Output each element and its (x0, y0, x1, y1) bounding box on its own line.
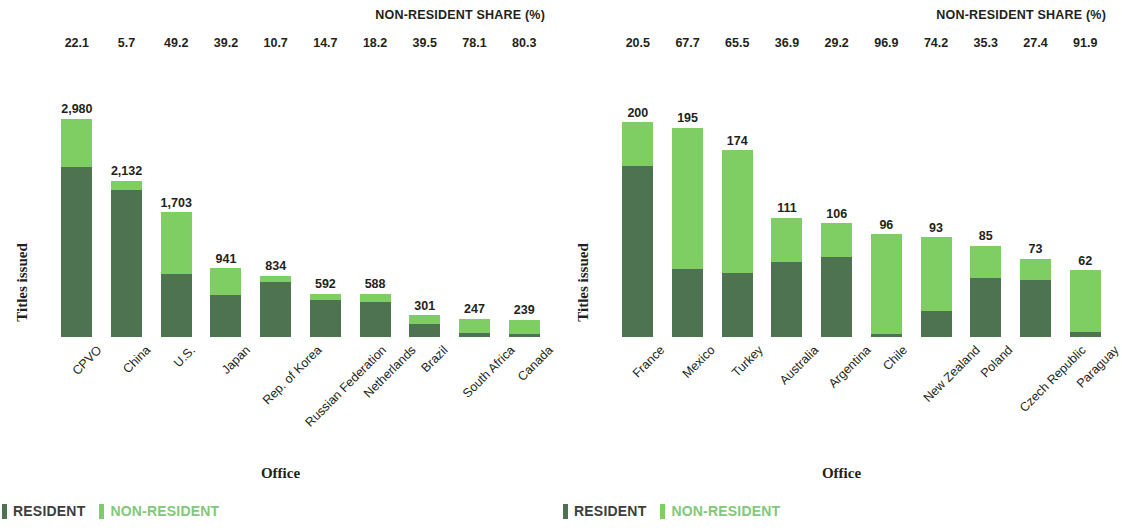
non-resident-share-value: 39.5 (400, 36, 450, 52)
x-axis-tick-label: New Zealand (911, 341, 961, 451)
bar-total-label: 592 (315, 278, 336, 291)
chart-panel-right: NON-RESIDENT SHARE (%) 20.567.765.536.92… (561, 0, 1122, 531)
bar-segment-non-resident[interactable] (622, 122, 653, 166)
non-resident-share-value: 29.2 (812, 36, 862, 52)
x-axis-tick-text: France (630, 343, 667, 380)
bar-segment-resident[interactable] (622, 166, 653, 337)
bar-segment-non-resident[interactable] (509, 320, 540, 334)
stacked-bar[interactable] (459, 319, 490, 337)
bar-segment-non-resident[interactable] (921, 237, 952, 311)
x-axis-tick-text: Paraguay (1074, 343, 1122, 391)
stacked-bar[interactable] (61, 119, 92, 337)
bar-segment-resident[interactable] (409, 324, 440, 337)
stacked-bar[interactable] (509, 320, 540, 337)
bar-segment-resident[interactable] (459, 333, 490, 337)
bar-segment-non-resident[interactable] (771, 218, 802, 262)
bar-segment-non-resident[interactable] (1020, 259, 1051, 281)
bar-segment-non-resident[interactable] (672, 128, 703, 270)
bar-segment-resident[interactable] (161, 274, 192, 337)
bar-segment-non-resident[interactable] (210, 268, 241, 295)
bar-group: 200 (613, 100, 663, 337)
stacked-bar[interactable] (821, 223, 852, 337)
bar-segment-resident[interactable] (310, 300, 341, 337)
non-resident-share-value: 65.5 (712, 36, 762, 52)
bar-segment-resident[interactable] (509, 334, 540, 337)
bar-segment-resident[interactable] (210, 295, 241, 337)
resident-swatch-icon (2, 504, 7, 519)
stacked-bar[interactable] (622, 122, 653, 337)
bar-segment-non-resident[interactable] (409, 315, 440, 324)
x-axis-title: Office (0, 465, 561, 482)
bar-group: 96 (862, 100, 912, 337)
bar-segment-resident[interactable] (871, 334, 902, 337)
bar-segment-resident[interactable] (111, 190, 142, 337)
stacked-bar[interactable] (722, 150, 753, 337)
non-resident-share-value: 91.9 (1060, 36, 1110, 52)
x-axis-tick-text: China (120, 343, 153, 376)
stacked-bar[interactable] (672, 128, 703, 337)
bar-segment-resident[interactable] (921, 311, 952, 337)
bar-group: 106 (812, 100, 862, 337)
non-resident-share-values: 22.15.749.239.210.714.718.239.578.180.3 (52, 36, 549, 52)
x-axis-tick-text: Turkey (729, 343, 766, 380)
x-axis-category-labels: FranceMexicoTurkeyAustraliaArgentinaChil… (613, 341, 1110, 451)
bar-segment-non-resident[interactable] (459, 319, 490, 333)
x-axis-tick-label: Australia (762, 341, 812, 451)
stacked-bar[interactable] (1020, 259, 1051, 337)
y-axis-title: Titles issued (575, 223, 592, 343)
bar-segment-resident[interactable] (260, 282, 291, 337)
non-resident-share-value: 14.7 (301, 36, 351, 52)
plot-area: 2001951741111069693857362 (613, 100, 1110, 337)
bar-group: 247 (450, 100, 500, 337)
bar-segment-non-resident[interactable] (1070, 270, 1101, 331)
bar-segment-resident[interactable] (1070, 332, 1101, 337)
bar-group: 941 (201, 100, 251, 337)
stacked-bar[interactable] (360, 294, 391, 337)
non-resident-share-value: 39.2 (201, 36, 251, 52)
bar-total-label: 239 (514, 304, 535, 317)
stacked-bar[interactable] (921, 237, 952, 337)
non-resident-share-value: 18.2 (350, 36, 400, 52)
non-resident-share-value: 10.7 (251, 36, 301, 52)
bar-group: 2,132 (102, 100, 152, 337)
x-axis-tick-label: Argentina (812, 341, 862, 451)
bar-segment-resident[interactable] (821, 257, 852, 338)
legend: RESIDENT NON-RESIDENT (2, 503, 219, 519)
x-axis-tick-label: Japan (201, 341, 251, 451)
stacked-bar[interactable] (161, 212, 192, 337)
bar-segment-resident[interactable] (970, 278, 1001, 337)
stacked-bar[interactable] (1070, 270, 1101, 337)
bar-segment-non-resident[interactable] (970, 246, 1001, 278)
x-axis-tick-label: South Africa (450, 341, 500, 451)
stacked-bar[interactable] (310, 294, 341, 337)
stacked-bar[interactable] (970, 246, 1001, 337)
bar-segment-non-resident[interactable] (722, 150, 753, 272)
stacked-bar[interactable] (409, 315, 440, 337)
bar-segment-non-resident[interactable] (111, 181, 142, 190)
legend-label-resident: RESIDENT (13, 503, 85, 519)
non-resident-share-value: 20.5 (613, 36, 663, 52)
stacked-bar[interactable] (871, 234, 902, 337)
bar-segment-resident[interactable] (771, 262, 802, 337)
x-axis-tick-label: Russian Federation (301, 341, 351, 451)
stacked-bar[interactable] (111, 181, 142, 337)
stacked-bar[interactable] (771, 218, 802, 337)
bar-segment-resident[interactable] (61, 167, 92, 337)
bar-segment-non-resident[interactable] (161, 212, 192, 274)
bar-group: 301 (400, 100, 450, 337)
stacked-bar[interactable] (260, 276, 291, 337)
stacked-bar[interactable] (210, 268, 241, 337)
bar-segment-non-resident[interactable] (821, 223, 852, 256)
bar-total-label: 62 (1078, 255, 1092, 268)
bar-segment-resident[interactable] (672, 269, 703, 337)
bar-segment-non-resident[interactable] (871, 234, 902, 334)
bar-segment-resident[interactable] (360, 302, 391, 337)
bar-segment-resident[interactable] (722, 273, 753, 337)
non-resident-share-header: NON-RESIDENT SHARE (%) (375, 8, 545, 22)
bar-total-label: 1,703 (161, 197, 192, 210)
bar-segment-non-resident[interactable] (360, 294, 391, 302)
bar-total-label: 301 (414, 300, 435, 313)
bar-total-label: 200 (627, 107, 648, 120)
bar-segment-non-resident[interactable] (61, 119, 92, 167)
bar-segment-resident[interactable] (1020, 280, 1051, 337)
